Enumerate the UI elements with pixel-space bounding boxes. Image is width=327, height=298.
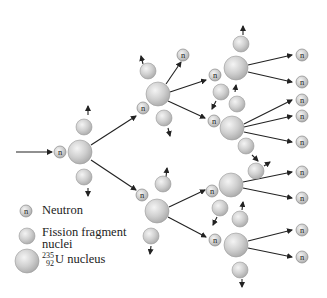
uranium-nucleus-5 <box>220 116 244 140</box>
legend-neutron-label: Neutron <box>42 204 83 217</box>
isotope-notation: 235 92 <box>42 252 54 268</box>
atomic-number: 92 <box>42 260 54 268</box>
uranium-nucleus-6 <box>219 173 243 197</box>
uranium-nucleus-3 <box>145 199 169 223</box>
uranium-nucleus-2 <box>146 82 170 106</box>
legend-uranium-symbol <box>15 249 39 273</box>
uranium-nucleus-7 <box>224 233 248 257</box>
legend-fragment-label-line2: nuclei <box>42 238 73 251</box>
uranium-nucleus-4 <box>224 56 248 80</box>
legend-fragment-symbol <box>19 228 35 244</box>
uranium-nucleus-1 <box>68 140 92 164</box>
legend-uranium-label: 235 92 U nucleus <box>42 252 105 268</box>
uranium-label-text: U nucleus <box>55 252 105 266</box>
